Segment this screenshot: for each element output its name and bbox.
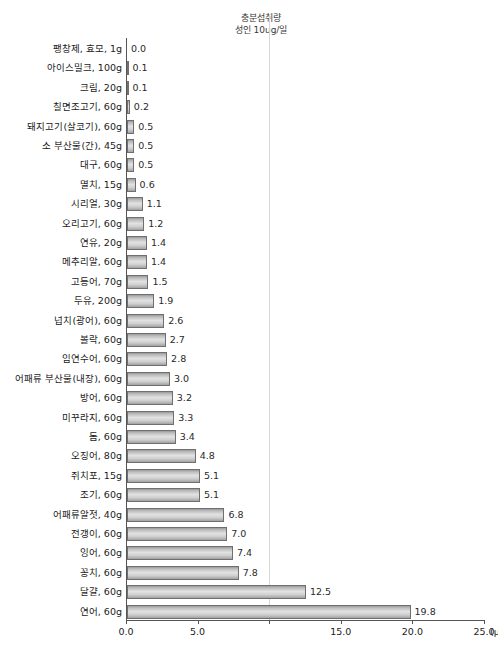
- bar-value-label: 1.4: [151, 233, 166, 253]
- bar: [127, 61, 129, 75]
- bar: [127, 430, 176, 444]
- bar-value-label: 12.5: [310, 582, 331, 602]
- bar-value-label: 0.0: [131, 39, 146, 59]
- x-tick: [484, 620, 485, 624]
- chart-root: 충분섭취량 성인 10ug/일 팽창제, 효모, 1g0.0아이스밀크, 100…: [0, 0, 498, 652]
- category-label: 오징어, 80g: [71, 446, 122, 466]
- category-label: 방어, 60g: [80, 388, 122, 408]
- bar-value-label: 3.0: [174, 369, 189, 389]
- bar-value-label: 0.5: [138, 155, 153, 175]
- category-label: 돔, 60g: [89, 427, 122, 447]
- bar-row: 칠면조고기, 60g0.2: [126, 97, 484, 117]
- x-tick: [198, 620, 199, 624]
- category-label: 쥐치포, 15g: [71, 466, 122, 486]
- category-label: 오리고기, 60g: [62, 214, 122, 234]
- bar-value-label: 5.1: [204, 466, 219, 486]
- bar: [127, 352, 167, 366]
- bar-value-label: 0.5: [138, 136, 153, 156]
- reference-line-annotation: 충분섭취량 성인 10ug/일: [196, 12, 326, 36]
- bar-value-label: 0.1: [132, 58, 147, 78]
- bar-row: 어패류 부산물(내장), 60g3.0: [126, 369, 484, 389]
- bar: [127, 100, 130, 114]
- category-label: 아이스밀크, 100g: [47, 58, 122, 78]
- bar-value-label: 2.8: [171, 349, 186, 369]
- plot-area: 팽창제, 효모, 1g0.0아이스밀크, 100g0.1크림, 20g0.1칠면…: [126, 38, 484, 620]
- bar-row: 돔, 60g3.4: [126, 427, 484, 447]
- bar-value-label: 3.2: [177, 388, 192, 408]
- category-label: 크림, 20g: [80, 78, 122, 98]
- bar-row: 아이스밀크, 100g0.1: [126, 58, 484, 78]
- category-label: 소 부산물(간), 45g: [42, 136, 122, 156]
- bar: [127, 411, 174, 425]
- bar: [127, 158, 134, 172]
- bar-row: 방어, 60g3.2: [126, 388, 484, 408]
- bar: [127, 469, 200, 483]
- x-tick-label: 0.0: [118, 626, 133, 637]
- category-label: 조기, 60g: [80, 485, 122, 505]
- bar-row: 볼락, 60g2.7: [126, 330, 484, 350]
- bar-value-label: 0.2: [134, 97, 149, 117]
- bar-value-label: 0.1: [132, 78, 147, 98]
- bar-row: 두유, 200g1.9: [126, 291, 484, 311]
- bar-row: 잉어, 60g7.4: [126, 543, 484, 563]
- bar: [127, 605, 411, 619]
- category-label: 어패류 부산물(내장), 60g: [15, 369, 122, 389]
- category-label: 칠면조고기, 60g: [53, 97, 122, 117]
- bar-row: 연어, 60g19.8: [126, 602, 484, 622]
- bar: [127, 566, 239, 580]
- bar: [127, 120, 134, 134]
- bar-value-label: 7.0: [231, 524, 246, 544]
- bar: [127, 585, 306, 599]
- bar-value-label: 4.8: [200, 446, 215, 466]
- category-label: 넙치(광어), 60g: [54, 311, 122, 331]
- category-label: 멸치, 15g: [80, 175, 122, 195]
- annotation-line-2: 성인 10ug/일: [196, 24, 326, 36]
- bar-row: 고등어, 70g1.5: [126, 272, 484, 292]
- bar-value-label: 19.8: [415, 602, 436, 622]
- bar-row: 소 부산물(간), 45g0.5: [126, 136, 484, 156]
- bar-value-label: 3.3: [178, 408, 193, 428]
- x-tick: [126, 620, 127, 624]
- bar-row: 시리얼, 30g1.1: [126, 194, 484, 214]
- bar: [127, 275, 148, 289]
- x-tick: [412, 620, 413, 624]
- bar-row: 넙치(광어), 60g2.6: [126, 311, 484, 331]
- bar-value-label: 1.2: [148, 214, 163, 234]
- bar: [127, 391, 173, 405]
- bar-value-label: 0.5: [138, 117, 153, 137]
- category-label: 팽창제, 효모, 1g: [53, 39, 122, 59]
- bar: [127, 372, 170, 386]
- bar: [127, 236, 147, 250]
- bar-value-label: 5.1: [204, 485, 219, 505]
- category-label: 연어, 60g: [80, 602, 122, 622]
- category-label: 볼락, 60g: [80, 330, 122, 350]
- bar-row: 미꾸라지, 60g3.3: [126, 408, 484, 428]
- category-label: 연유, 20g: [80, 233, 122, 253]
- bar-row: 꽁치, 60g7.8: [126, 563, 484, 583]
- bar-value-label: 1.5: [152, 272, 167, 292]
- bar: [127, 314, 164, 328]
- bar-row: 오징어, 80g4.8: [126, 446, 484, 466]
- bar-value-label: 1.1: [147, 194, 162, 214]
- category-label: 잉어, 60g: [80, 543, 122, 563]
- category-label: 고등어, 70g: [71, 272, 122, 292]
- bar-row: 돼지고기(살코기), 60g0.5: [126, 117, 484, 137]
- category-label: 어패류알젓, 40g: [53, 505, 122, 525]
- bar-value-label: 7.4: [237, 543, 252, 563]
- bar-row: 크림, 20g0.1: [126, 78, 484, 98]
- category-label: 달걀, 60g: [80, 582, 122, 602]
- category-label: 꽁치, 60g: [80, 563, 122, 583]
- x-tick: [269, 620, 270, 624]
- category-label: 대구, 60g: [80, 155, 122, 175]
- bar-value-label: 2.7: [170, 330, 185, 350]
- category-label: 전갱이, 60g: [71, 524, 122, 544]
- bar-row: 대구, 60g0.5: [126, 155, 484, 175]
- bar: [127, 81, 129, 95]
- category-label: 메추리알, 60g: [62, 252, 122, 272]
- bar: [127, 488, 200, 502]
- bar: [127, 294, 154, 308]
- bar: [127, 255, 147, 269]
- bar-row: 전갱이, 60g7.0: [126, 524, 484, 544]
- x-tick-label: 15.0: [330, 626, 351, 637]
- x-tick-label: 5.0: [190, 626, 205, 637]
